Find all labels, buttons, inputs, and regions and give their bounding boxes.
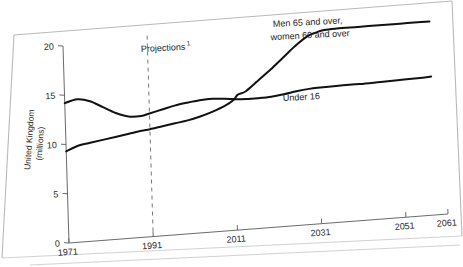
y-tick-labels: 05101520 — [44, 42, 61, 249]
elderly-series-label-line2: women 60 and over — [269, 28, 349, 42]
projections-annotation: Projections 1 — [140, 39, 191, 54]
x-tick-label: 1991 — [142, 240, 163, 251]
y-tick-label: 5 — [53, 189, 59, 199]
projections-footnote-marker: 1 — [186, 39, 190, 46]
chart-text-layer: United Kingdom (millions) 05101520 19711… — [0, 0, 463, 267]
elderly-series-label-line1: Men 65 and over, — [273, 15, 343, 29]
x-tick-label: 2031 — [310, 227, 331, 238]
under16-series-label: Under 16 — [283, 91, 321, 103]
chart-figure: United Kingdom (millions) 05101520 19711… — [0, 0, 463, 267]
y-axis-title: United Kingdom (millions) — [22, 109, 47, 171]
y-tick-label: 20 — [44, 42, 55, 53]
x-tick-label: 1971 — [57, 246, 78, 257]
y-axis-title-line2: (millions) — [34, 126, 46, 161]
y-tick-label: 10 — [47, 140, 58, 151]
under16-series-annotation: Under 16 — [283, 91, 321, 103]
x-tick-labels: 197119912011203120512061 — [57, 217, 457, 257]
x-tick-label: 2061 — [436, 217, 457, 228]
x-tick-label: 2011 — [226, 233, 246, 244]
y-tick-label: 15 — [45, 91, 56, 102]
projections-label: Projections — [141, 42, 186, 54]
x-tick-label: 2051 — [394, 221, 415, 232]
elderly-series-annotation: Men 65 and over, women 60 and over — [269, 15, 350, 42]
